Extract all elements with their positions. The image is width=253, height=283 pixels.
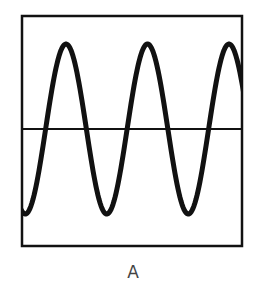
figure-label: A	[0, 262, 253, 282]
sine-wave-figure	[0, 0, 253, 283]
